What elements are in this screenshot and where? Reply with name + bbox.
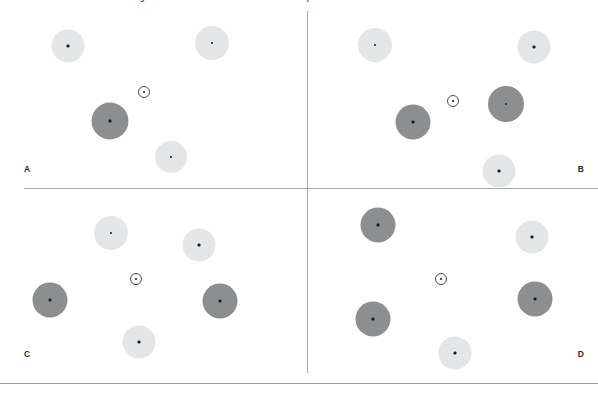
marker-b-ref: [447, 95, 459, 107]
marker-c-ref: [130, 273, 142, 285]
marker-b-1-center-dot: [374, 44, 377, 47]
marker-a-3: [92, 103, 129, 140]
marker-b-2-center-dot: [533, 46, 536, 49]
panel-c: C: [0, 189, 307, 373]
marker-d-ref: [435, 273, 447, 285]
marker-d-2-center-dot: [531, 236, 534, 239]
marker-c-2-center-dot: [198, 244, 201, 247]
marker-d-4: [356, 302, 391, 337]
marker-c-3: [33, 283, 68, 318]
marker-c-4-center-dot: [219, 300, 222, 303]
marker-c-5: [123, 326, 156, 359]
marker-c-1: [94, 216, 128, 250]
figure-caption-number: 1.1: [10, 0, 20, 2]
panel-b: B: [308, 11, 598, 188]
marker-b-4-center-dot: [505, 103, 508, 106]
marker-a-4: [155, 141, 187, 173]
panel-label-b: B: [578, 164, 584, 174]
marker-c-5-center-dot: [138, 341, 141, 344]
marker-b-5-center-dot: [498, 170, 501, 173]
marker-a-2: [195, 26, 229, 60]
marker-a-3-center-dot: [109, 120, 112, 123]
marker-d-1-center-dot: [377, 224, 380, 227]
marker-c-3-center-dot: [49, 299, 52, 302]
marker-d-1: [361, 208, 396, 243]
marker-d-3: [518, 282, 553, 317]
marker-c-2: [183, 229, 216, 262]
panel-label-d: D: [578, 349, 584, 359]
marker-a-1-center-dot: [67, 45, 70, 48]
marker-a-4-center-dot: [170, 156, 173, 159]
marker-c-1-center-dot: [110, 232, 113, 235]
figure-caption-line: 1.1Vier Bilder als Veranschaulichung der…: [10, 0, 319, 2]
marker-d-5: [439, 337, 472, 370]
marker-b-1: [358, 28, 392, 62]
figure-caption: 1.1Vier Bilder als Veranschaulichung der…: [0, 0, 598, 5]
marker-c-ref-center-dot: [135, 278, 137, 280]
panel-label-c: C: [24, 349, 30, 359]
marker-b-5: [483, 155, 516, 188]
marker-d-2: [516, 221, 549, 254]
marker-a-1: [52, 30, 85, 63]
marker-b-3-center-dot: [412, 121, 415, 124]
marker-b-ref-center-dot: [452, 100, 454, 102]
marker-b-2: [518, 31, 551, 64]
footer-rule: [0, 383, 598, 384]
marker-c-4: [203, 284, 238, 319]
panel-label-a: A: [24, 164, 30, 174]
marker-a-ref: [138, 86, 150, 98]
marker-d-5-center-dot: [454, 352, 457, 355]
marker-a-2-center-dot: [211, 42, 214, 45]
figure-caption-body: Vier Bilder als Veranschaulichung der Si…: [27, 0, 319, 2]
marker-b-4: [488, 86, 524, 122]
marker-d-ref-center-dot: [440, 278, 442, 280]
panel-a: A: [0, 11, 307, 188]
marker-b-3: [396, 105, 431, 140]
marker-a-ref-center-dot: [143, 91, 145, 93]
marker-d-4-center-dot: [372, 318, 375, 321]
marker-d-3-center-dot: [534, 298, 537, 301]
panel-d: D: [308, 189, 598, 373]
figure-root: 1.1Vier Bilder als Veranschaulichung der…: [0, 0, 598, 397]
